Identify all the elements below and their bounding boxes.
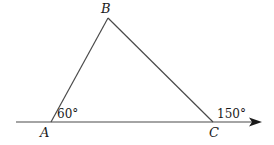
vertex-label-c: C xyxy=(209,125,219,140)
triangle-diagram: B A C 60° 150° xyxy=(0,0,274,145)
vertex-label-b: B xyxy=(100,1,111,16)
angle-label-c-exterior: 150° xyxy=(217,107,246,121)
side-bc xyxy=(108,18,213,122)
vertex-label-a: A xyxy=(39,125,49,140)
angle-label-a: 60° xyxy=(57,107,78,121)
diagram-svg: B A C 60° 150° xyxy=(0,0,274,145)
